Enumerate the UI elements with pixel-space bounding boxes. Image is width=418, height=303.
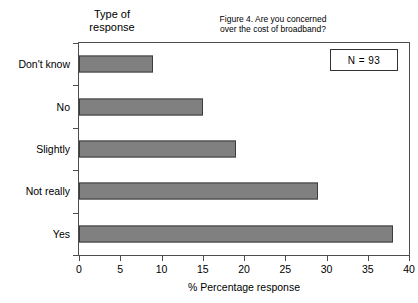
bar-no [79, 98, 203, 115]
y-tick-mark [73, 85, 78, 86]
x-tick-label: 25 [270, 263, 300, 275]
x-tick-mark [79, 256, 80, 261]
y-tick-mark [73, 43, 78, 44]
bar-band [79, 213, 409, 255]
y-axis-title: Type of response [52, 8, 172, 34]
x-tick-mark [120, 256, 121, 261]
chart-title: Figure 4. Are you concerned over the cos… [178, 14, 368, 34]
y-axis-tick-labels: Don't know No Slightly Not really Yes [0, 43, 73, 255]
y-tick-label: Yes [0, 213, 73, 255]
bar-band [79, 85, 409, 127]
x-tick-label: 15 [188, 263, 218, 275]
x-tick-mark [368, 256, 369, 261]
y-tick-mark [73, 128, 78, 129]
bar-slightly [79, 140, 236, 157]
x-tick-label: 5 [105, 263, 135, 275]
x-tick-label: 40 [394, 263, 418, 275]
x-tick-mark [327, 256, 328, 261]
bar-dont-know [79, 56, 153, 73]
bar-band [79, 43, 409, 85]
x-tick-mark [162, 256, 163, 261]
x-tick-label: 0 [64, 263, 94, 275]
x-axis-title: % Percentage response [78, 281, 410, 293]
x-tick-mark [203, 256, 204, 261]
x-tick-mark [285, 256, 286, 261]
x-tick-label: 30 [312, 263, 342, 275]
y-tick-label: Slightly [0, 128, 73, 170]
bars-container [79, 43, 409, 255]
x-tick-label: 10 [147, 263, 177, 275]
bar-not-really [79, 183, 318, 200]
figure-bar-chart: Type of response Figure 4. Are you conce… [0, 0, 418, 303]
y-tick-label: Not really [0, 170, 73, 212]
y-tick-label: Don't know [0, 43, 73, 85]
bar-yes [79, 225, 393, 242]
bar-band [79, 128, 409, 170]
x-tick-mark [244, 256, 245, 261]
x-tick-label: 35 [353, 263, 383, 275]
bar-band [79, 170, 409, 212]
y-tick-mark [73, 170, 78, 171]
y-tick-mark [73, 213, 78, 214]
y-tick-mark [73, 255, 78, 256]
y-tick-label: No [0, 85, 73, 127]
x-tick-label: 20 [229, 263, 259, 275]
x-tick-mark [409, 256, 410, 261]
